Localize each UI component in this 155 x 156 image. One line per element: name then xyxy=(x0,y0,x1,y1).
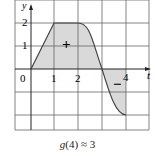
caption: g(4) ≈ 3 xyxy=(0,138,155,150)
x-tick-1: 1 xyxy=(51,72,57,84)
x-tick-4: 4 xyxy=(123,71,129,83)
y-tick-1: 1 xyxy=(22,39,28,51)
x-tick-2: 2 xyxy=(75,72,81,84)
minus-sign: − xyxy=(113,76,122,93)
y-axis-arrow-icon xyxy=(29,4,33,10)
plus-sign: + xyxy=(62,36,71,53)
y-tick-2: 2 xyxy=(22,16,28,28)
y-axis-label: y xyxy=(22,0,26,11)
caption-rest: (4) ≈ 3 xyxy=(65,138,95,150)
x-tick-0: 0 xyxy=(20,72,26,84)
t-axis-label: t xyxy=(147,69,150,81)
